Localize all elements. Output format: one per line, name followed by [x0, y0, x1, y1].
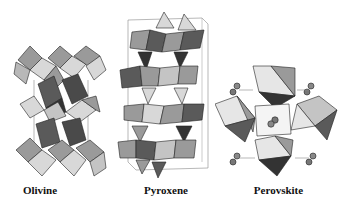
pyroxene-panel: Pyroxene: [112, 0, 220, 206]
olivine-panel: Olivine: [0, 0, 112, 206]
pyroxene-label: Pyroxene: [112, 184, 220, 196]
perovskite-panel: Perovskite: [215, 0, 342, 206]
perovskite-structure-image: [215, 0, 342, 206]
olivine-label: Olivine: [0, 184, 80, 196]
pyroxene-structure-image: [112, 0, 220, 206]
perovskite-label: Perovskite: [215, 184, 342, 196]
olivine-structure-image: [0, 0, 112, 206]
